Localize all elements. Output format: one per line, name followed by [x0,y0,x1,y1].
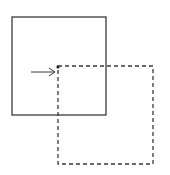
corner-dot [56,65,59,68]
arrow-right-icon [31,68,55,76]
translation-diagram [0,0,170,175]
